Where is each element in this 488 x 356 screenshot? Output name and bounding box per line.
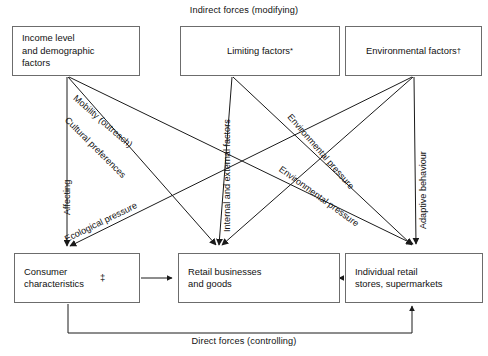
- node-limiting-label: Limiting factors: [227, 45, 290, 57]
- edge-feedback-consumer-to-stores: [68, 304, 412, 333]
- node-retail-businesses[interactable]: Retail businesses and goods: [178, 253, 340, 303]
- node-individual-retail-stores[interactable]: Individual retail stores, supermarkets: [345, 253, 483, 303]
- edge-environ-to-retail: [222, 77, 413, 245]
- diagram-canvas: Indirect forces (modifying): [0, 0, 488, 356]
- node-consumer-label: Consumer characteristics: [24, 266, 84, 291]
- node-environ-label: Environmental factors: [366, 45, 457, 57]
- diagram-bottom-caption: Direct forces (controlling): [0, 336, 488, 346]
- node-income-label: Income level and demographic factors: [22, 32, 94, 69]
- node-retail-label: Retail businesses and goods: [188, 266, 261, 291]
- node-consumer-characteristics[interactable]: Consumer characteristics‡: [14, 253, 140, 303]
- edge-label-internal-external-factors: Internal and external factors: [222, 119, 232, 232]
- edge-environ-to-stores: [414, 77, 416, 244]
- node-environmental-factors[interactable]: Environmental factors†: [345, 26, 482, 76]
- node-limiting-factors[interactable]: Limiting factors*: [180, 26, 340, 76]
- edge-income-to-retail: [68, 77, 216, 245]
- node-consumer-marker: ‡: [84, 272, 105, 284]
- edge-label-affecting: Affecting: [62, 180, 72, 215]
- edge-label-adaptive-behaviour: Adaptive behaviour: [418, 151, 428, 229]
- node-income-level[interactable]: Income level and demographic factors: [12, 26, 140, 76]
- node-stores-label: Individual retail stores, supermarkets: [355, 266, 443, 291]
